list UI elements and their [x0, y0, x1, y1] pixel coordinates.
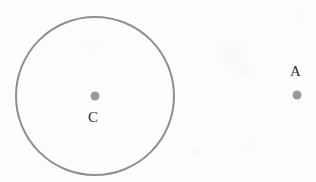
- point-a-label: A: [290, 64, 301, 79]
- geometry-diagram: C A: [0, 0, 316, 182]
- point-c-label: C: [88, 110, 98, 125]
- diagram-canvas: [0, 0, 316, 182]
- point-a-dot: [293, 91, 302, 100]
- point-c-dot: [91, 92, 100, 101]
